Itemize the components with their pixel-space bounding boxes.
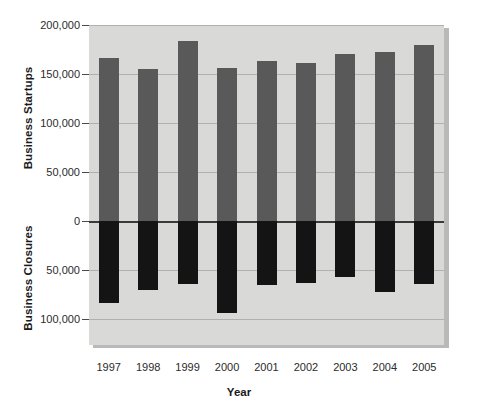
bar-closures-1998 [138, 221, 158, 290]
x-axis-title: Year [0, 386, 478, 398]
x-tick-label-2001: 2001 [245, 361, 289, 373]
bar-startups-1998 [138, 69, 158, 221]
bar-closures-2003 [335, 221, 355, 277]
x-tick-label-1998: 1998 [126, 361, 170, 373]
bar-startups-2005 [414, 45, 434, 221]
bar-closures-1997 [99, 221, 119, 303]
plot-area [89, 25, 444, 345]
x-tick-label-2003: 2003 [323, 361, 367, 373]
bar-startups-2001 [257, 61, 277, 221]
bar-closures-2002 [296, 221, 316, 283]
gridline [89, 319, 444, 320]
bar-startups-2003 [335, 54, 355, 221]
y-tick-label: 50,000 [0, 166, 88, 178]
y-tick-label: 0 [0, 215, 88, 227]
y-tick-label: 150,000 [0, 68, 88, 80]
bar-startups-1997 [99, 58, 119, 221]
bar-startups-2002 [296, 63, 316, 221]
bar-startups-1999 [178, 41, 198, 221]
x-tick-label-2004: 2004 [363, 361, 407, 373]
x-tick-label-1997: 1997 [87, 361, 131, 373]
y-axis-title-startups: Business Startups [22, 28, 34, 208]
x-tick-label-2005: 2005 [402, 361, 446, 373]
y-axis-title-closures: Business Closures [22, 208, 34, 348]
gridline [89, 25, 444, 26]
chart-figure: 200,000150,000100,00050,000050,000100,00… [0, 0, 478, 415]
y-tick-label: 200,000 [0, 19, 88, 31]
bar-closures-2000 [217, 221, 237, 313]
bar-startups-2004 [375, 52, 395, 221]
y-tick-label: 100,000 [0, 313, 88, 325]
bar-startups-2000 [217, 68, 237, 221]
x-tick-label-2002: 2002 [284, 361, 328, 373]
x-tick-label-2000: 2000 [205, 361, 249, 373]
bar-closures-1999 [178, 221, 198, 284]
y-tick-label: 50,000 [0, 264, 88, 276]
bar-closures-2004 [375, 221, 395, 292]
y-tick-label: 100,000 [0, 117, 88, 129]
bar-closures-2001 [257, 221, 277, 285]
bar-closures-2005 [414, 221, 434, 284]
x-tick-label-1999: 1999 [166, 361, 210, 373]
